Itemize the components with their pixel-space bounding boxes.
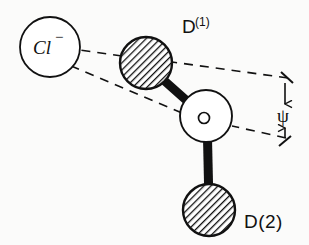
angle-psi-symbol: ψ <box>277 105 289 126</box>
atom-chloride: Cl − <box>20 17 80 77</box>
deuterium-1-superscript: (1) <box>195 15 210 29</box>
oxygen-inner-ring-icon <box>199 113 210 124</box>
chloride-label: Cl <box>33 37 51 58</box>
angle-dimension-group: ψ <box>277 72 293 146</box>
reference-axis-right <box>232 126 286 138</box>
molecular-diagram-figure: Cl − D (1) D(2) ψ <box>0 0 309 245</box>
atom-oxygen <box>180 90 232 142</box>
atom-deuterium-2: D(2) <box>183 184 283 236</box>
diagram-canvas: Cl − D (1) D(2) ψ <box>0 0 309 245</box>
chloride-charge-label: − <box>55 29 63 45</box>
hydrogen-bond-axis-right <box>172 62 288 78</box>
deuterium-2-label: D(2) <box>244 211 283 232</box>
deuterium-2-sphere <box>183 184 235 236</box>
deuterium-1-sphere <box>120 37 172 89</box>
atom-deuterium-1: D (1) <box>120 15 210 89</box>
